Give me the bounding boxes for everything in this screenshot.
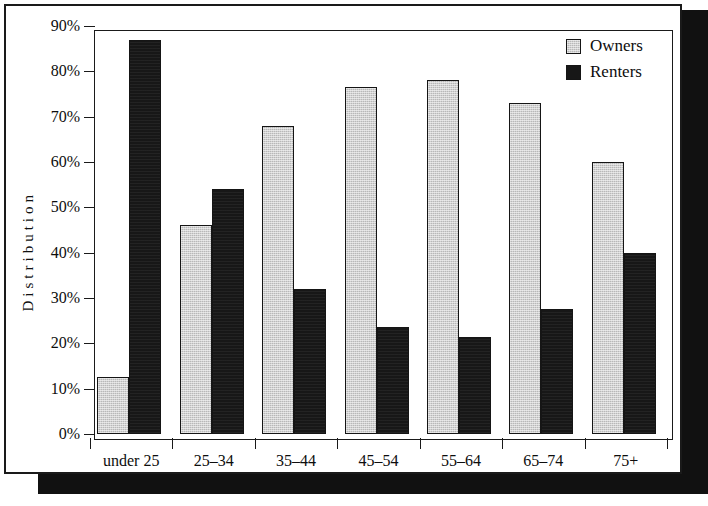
y-axis-tick-label: 10% bbox=[6, 380, 80, 398]
figure-drop-shadow-right bbox=[682, 10, 708, 490]
x-axis-tick bbox=[172, 438, 173, 449]
y-axis-tick bbox=[84, 162, 95, 163]
y-axis-tick bbox=[84, 71, 95, 72]
y-axis-tick-label: 60% bbox=[6, 153, 80, 171]
x-axis-tick-label: 55–64 bbox=[441, 452, 481, 470]
y-axis-tick-label: 30% bbox=[6, 289, 80, 307]
x-axis-tick-label: 35–44 bbox=[276, 452, 316, 470]
bar-renters-6574 bbox=[541, 309, 573, 434]
x-axis-tick bbox=[502, 438, 503, 449]
legend-label-renters: Renters bbox=[590, 62, 642, 82]
bar-owners-3544 bbox=[262, 126, 294, 434]
x-axis-tick bbox=[337, 438, 338, 449]
bar-owners-75+ bbox=[592, 162, 624, 434]
bar-owners-4554 bbox=[345, 87, 377, 434]
bar-renters-under-25 bbox=[129, 40, 161, 434]
bar-renters-2534 bbox=[212, 189, 244, 434]
legend-label-owners: Owners bbox=[590, 36, 643, 56]
x-axis-tick bbox=[255, 438, 256, 449]
figure-drop-shadow-bottom bbox=[38, 472, 708, 494]
y-axis-tick bbox=[84, 389, 95, 390]
bar-renters-5564 bbox=[459, 337, 491, 434]
y-axis-tick-label: 80% bbox=[6, 62, 80, 80]
bar-owners-2534 bbox=[180, 225, 212, 434]
x-axis-tick-label: 25–34 bbox=[194, 452, 234, 470]
x-axis-tick-label: 65–74 bbox=[523, 452, 563, 470]
y-axis-tick bbox=[84, 343, 95, 344]
chart-legend: Owners Renters bbox=[566, 34, 643, 86]
legend-entry-owners: Owners bbox=[566, 34, 643, 58]
x-axis-tick bbox=[420, 438, 421, 449]
bar-renters-4554 bbox=[377, 327, 409, 434]
y-axis-tick bbox=[84, 117, 95, 118]
x-axis-tick-label: under 25 bbox=[103, 452, 159, 470]
y-axis-tick-label: 70% bbox=[6, 108, 80, 126]
x-axis-tick-label: 45–54 bbox=[359, 452, 399, 470]
legend-swatch-owners-icon bbox=[566, 39, 581, 54]
bar-renters-75+ bbox=[624, 253, 656, 434]
legend-swatch-renters-icon bbox=[566, 65, 581, 80]
y-axis-tick bbox=[84, 298, 95, 299]
bar-owners-under-25 bbox=[97, 377, 129, 434]
y-axis-tick bbox=[84, 434, 95, 435]
bar-renters-3544 bbox=[294, 289, 326, 434]
y-axis-tick bbox=[84, 253, 95, 254]
x-axis-tick-label: 75+ bbox=[613, 452, 638, 470]
y-axis-tick-label: 0% bbox=[6, 425, 80, 443]
chart-figure: Distribution 0%10%20%30%40%50%60%70%80%9… bbox=[0, 0, 708, 506]
bar-owners-5564 bbox=[427, 80, 459, 434]
y-axis-tick-label: 20% bbox=[6, 334, 80, 352]
y-axis-tick-label: 50% bbox=[6, 198, 80, 216]
figure-frame: Distribution 0%10%20%30%40%50%60%70%80%9… bbox=[4, 4, 682, 474]
y-axis-tick-label: 90% bbox=[6, 17, 80, 35]
legend-entry-renters: Renters bbox=[566, 60, 643, 84]
y-axis-tick-label: 40% bbox=[6, 244, 80, 262]
y-axis-tick bbox=[84, 207, 95, 208]
x-axis-tick bbox=[585, 438, 586, 449]
y-axis-tick bbox=[84, 26, 95, 27]
x-axis-tick bbox=[90, 438, 91, 449]
x-axis-tick bbox=[667, 438, 668, 449]
bar-owners-6574 bbox=[509, 103, 541, 434]
